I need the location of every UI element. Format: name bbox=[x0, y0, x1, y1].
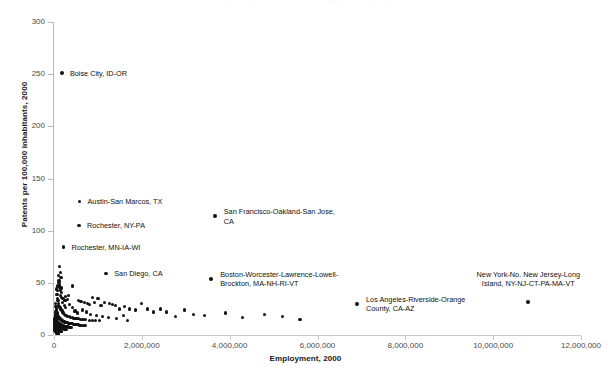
data-point bbox=[526, 300, 530, 304]
data-point bbox=[91, 296, 94, 299]
y-tick-mark bbox=[48, 126, 53, 127]
point-annotation: New York-No. New Jersey-Long Island, NY-… bbox=[466, 270, 590, 289]
data-point bbox=[165, 310, 168, 313]
x-tick-mark bbox=[318, 336, 319, 340]
data-point bbox=[98, 319, 101, 322]
x-tick-label: 4,000,000 bbox=[195, 341, 265, 350]
data-point bbox=[93, 301, 96, 304]
data-point bbox=[94, 319, 97, 322]
y-tick-mark bbox=[48, 179, 53, 180]
point-annotation: Los Angeles-Riverside-Orange County, CA-… bbox=[366, 295, 465, 314]
data-point bbox=[81, 308, 84, 311]
data-point bbox=[85, 310, 88, 313]
point-annotation: Boise City, ID-OR bbox=[70, 69, 127, 79]
y-tick-mark bbox=[48, 283, 53, 284]
data-point bbox=[115, 317, 118, 320]
x-tick-mark bbox=[405, 336, 406, 340]
data-point bbox=[101, 315, 104, 318]
data-point bbox=[76, 311, 79, 314]
point-annotation: Boston-Worcester-Lawrence-Lowell- Brockt… bbox=[220, 270, 338, 289]
data-point bbox=[213, 214, 217, 218]
data-point bbox=[183, 308, 186, 311]
x-tick-label: 12,000,000 bbox=[546, 341, 611, 350]
y-tick-label: 300 bbox=[5, 18, 45, 26]
data-point bbox=[62, 245, 66, 249]
data-point bbox=[71, 284, 74, 287]
data-point bbox=[83, 324, 86, 327]
data-point bbox=[103, 301, 106, 304]
chart-title: Patents per 100,000 inhabitants and empl… bbox=[0, 0, 611, 1]
data-point bbox=[96, 297, 99, 300]
data-point bbox=[174, 315, 177, 318]
data-point bbox=[57, 274, 60, 277]
data-point bbox=[57, 331, 60, 334]
y-axis-title: Patents per 100,000 inhabitants, 2000 bbox=[20, 55, 29, 255]
x-tick-mark bbox=[230, 336, 231, 340]
data-point bbox=[104, 272, 108, 276]
x-tick-label: 0 bbox=[19, 341, 89, 350]
y-tick-label: 250 bbox=[5, 70, 45, 78]
data-point bbox=[118, 307, 121, 310]
x-tick-mark bbox=[142, 336, 143, 340]
y-tick-mark bbox=[48, 335, 53, 336]
y-tick-label: 0 bbox=[5, 331, 45, 339]
scatter-chart: Patents per 100,000 inhabitants and empl… bbox=[0, 0, 611, 381]
data-point bbox=[95, 314, 98, 317]
x-tick-mark bbox=[54, 336, 55, 340]
x-axis-title: Employment, 2000 bbox=[0, 354, 611, 363]
y-tick-mark bbox=[48, 74, 53, 75]
y-tick-label: 150 bbox=[5, 175, 45, 183]
y-tick-mark bbox=[48, 231, 53, 232]
point-annotation: Rochester, MN-IA-WI bbox=[71, 243, 140, 253]
data-point bbox=[146, 307, 149, 310]
data-point bbox=[126, 319, 129, 322]
data-point bbox=[58, 265, 61, 268]
data-point bbox=[114, 304, 117, 307]
y-tick-mark bbox=[48, 22, 53, 23]
data-point bbox=[281, 315, 284, 318]
data-point bbox=[99, 304, 102, 307]
data-point bbox=[89, 313, 92, 316]
x-tick-mark bbox=[493, 336, 494, 340]
x-tick-mark bbox=[581, 336, 582, 340]
data-point bbox=[123, 305, 126, 308]
data-point bbox=[63, 299, 66, 302]
x-tick-label: 8,000,000 bbox=[370, 341, 440, 350]
data-point bbox=[69, 326, 72, 329]
data-point bbox=[56, 284, 59, 287]
data-point bbox=[65, 328, 68, 331]
x-tick-label: 6,000,000 bbox=[283, 341, 353, 350]
data-point bbox=[88, 303, 91, 306]
data-point bbox=[209, 277, 213, 281]
x-tick-label: 2,000,000 bbox=[107, 341, 177, 350]
data-point bbox=[107, 316, 110, 319]
point-annotation: San Francisco-Oakland-San Jose, CA bbox=[224, 207, 335, 226]
data-point bbox=[241, 316, 244, 319]
data-point bbox=[60, 296, 63, 299]
data-point bbox=[192, 313, 195, 316]
data-point bbox=[263, 313, 266, 316]
data-point bbox=[134, 308, 137, 311]
data-point bbox=[203, 314, 206, 317]
point-annotation: Austin-San Marcos, TX bbox=[87, 197, 162, 207]
y-tick-label: 100 bbox=[5, 227, 45, 235]
data-point bbox=[60, 71, 64, 75]
y-tick-label: 200 bbox=[5, 122, 45, 130]
data-point bbox=[67, 294, 70, 297]
data-point bbox=[122, 314, 125, 317]
data-point bbox=[64, 306, 67, 309]
data-point bbox=[298, 318, 301, 321]
data-point bbox=[159, 307, 162, 310]
data-point bbox=[60, 330, 63, 333]
data-point bbox=[152, 310, 155, 313]
data-point bbox=[140, 302, 143, 305]
point-annotation: Rochester, NY-PA bbox=[87, 221, 145, 231]
x-tick-label: 10,000,000 bbox=[458, 341, 528, 350]
y-tick-label: 50 bbox=[5, 279, 45, 287]
data-point bbox=[79, 300, 82, 303]
data-point bbox=[78, 200, 82, 204]
data-point bbox=[355, 302, 359, 306]
data-point bbox=[128, 307, 131, 310]
data-point bbox=[84, 318, 87, 321]
data-point bbox=[77, 224, 81, 228]
